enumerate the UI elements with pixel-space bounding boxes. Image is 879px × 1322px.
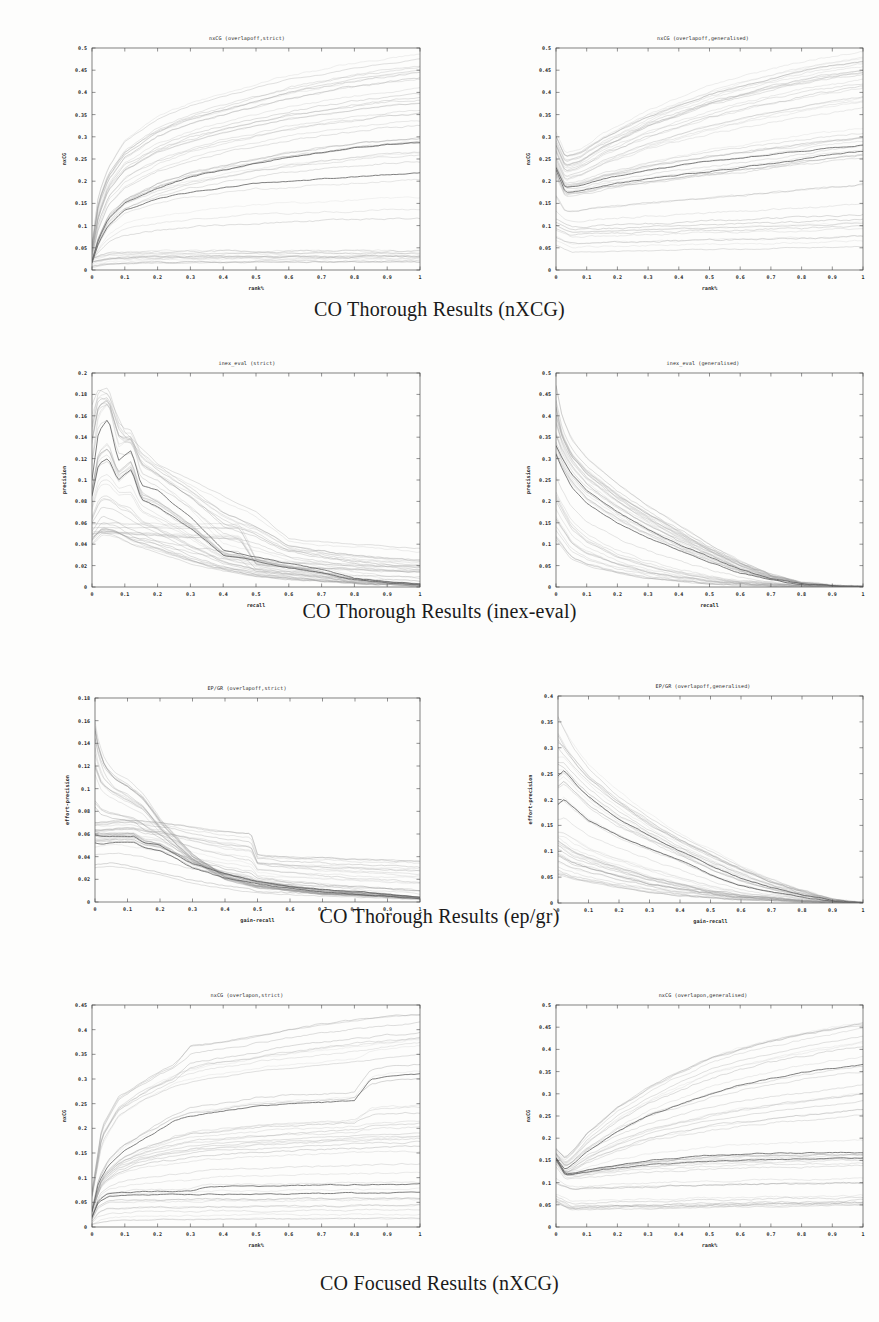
series-curve (556, 226, 863, 236)
x-tick-label: 0.5 (705, 274, 714, 280)
x-tick-label: 0.6 (284, 274, 293, 280)
y-axis-label: nxCG (61, 1110, 67, 1123)
series-curve (92, 500, 420, 585)
series-curve (92, 1163, 420, 1214)
x-tick-label: 0.5 (251, 274, 260, 280)
x-tick-label: 0 (554, 274, 557, 280)
series-curve (556, 141, 863, 184)
caption-row-2: CO Thorough Results (inex-eval) (0, 600, 879, 623)
plot-svg-p1: nxCG (overlapoff,strict) 00.10.20.30.40.… (42, 28, 432, 293)
plot-frame (556, 1005, 863, 1227)
series-curve (556, 1178, 863, 1187)
series-curve (556, 519, 863, 587)
x-tick-label: 0.3 (186, 1231, 195, 1237)
x-tick-label: 0 (554, 591, 557, 597)
series-curve (558, 762, 863, 902)
curve-bundle (556, 1022, 863, 1210)
plot-area-p7: 00.10.20.30.40.50.60.70.80.9100.050.10.1… (61, 1002, 422, 1248)
series-curve (558, 733, 863, 903)
y-tick-label: 0 (548, 1224, 551, 1230)
series-curve (92, 152, 420, 262)
x-tick-label: 0.8 (350, 1231, 359, 1237)
series-curve (556, 453, 863, 587)
y-tick-label: 0.15 (75, 200, 87, 206)
x-tick-label: 0 (554, 1231, 557, 1237)
y-tick-label: 0 (548, 267, 551, 273)
series-curve (92, 523, 420, 586)
panel-p7: nxCG (overlapon,strict) 00.10.20.30.40.5… (42, 985, 432, 1250)
x-tick-label: 0.4 (674, 1231, 683, 1237)
y-axis-label: precision (525, 466, 532, 494)
panel-p5: EP/GR (overlapoff,strict) 00.10.20.30.40… (42, 680, 432, 925)
series-curve (556, 414, 863, 587)
plot-frame (556, 48, 863, 270)
y-tick-label: 0.4 (542, 89, 551, 95)
series-curve (556, 1200, 863, 1207)
series-curve (92, 1123, 420, 1210)
x-tick-label: 0.1 (582, 274, 591, 280)
y-tick-label: 0.4 (542, 1046, 551, 1052)
y-tick-label: 0.14 (78, 740, 90, 746)
x-tick-label: 1 (418, 591, 421, 597)
y-tick-label: 0.16 (78, 718, 90, 724)
series-curve-run-mid (92, 1133, 420, 1210)
x-tick-label: 0.2 (153, 1231, 162, 1237)
y-tick-label: 0.2 (78, 370, 87, 376)
series-curve (556, 1022, 863, 1156)
x-tick-label: 0.7 (766, 1231, 775, 1237)
x-tick-label: 0.5 (705, 1231, 714, 1237)
series-curve (556, 453, 863, 587)
plot-area-p6: 00.10.20.30.40.50.60.70.80.9100.050.10.1… (527, 693, 865, 925)
panel-p3: inex_eval (strict) 00.10.20.30.40.50.60.… (42, 355, 432, 607)
series-curve (95, 832, 420, 899)
x-tick-label: 0.9 (383, 1231, 392, 1237)
plot-area-p8: 00.10.20.30.40.50.60.70.80.9100.050.10.1… (525, 1002, 865, 1248)
series-curve-run-median-bold (556, 145, 863, 187)
curve-bundle (92, 54, 420, 267)
curve-bundle (92, 388, 420, 587)
x-tick-label: 0.9 (828, 591, 837, 597)
x-tick-label: 0 (90, 1231, 93, 1237)
y-tick-label: 0 (84, 1224, 87, 1230)
plot-svg-p3: inex_eval (strict) 00.10.20.30.40.50.60.… (42, 355, 432, 607)
x-tick-label: 0.3 (644, 591, 653, 597)
plot-area-p5: 00.10.20.30.40.50.60.70.80.9100.020.040.… (64, 695, 422, 924)
plot-title-p8: nxCG (overlapon,generalised) (659, 992, 748, 999)
y-tick-label: 0.35 (75, 1051, 87, 1057)
y-tick-label: 0.12 (78, 763, 90, 769)
series-curve (92, 1037, 420, 1196)
x-tick-label: 0.1 (582, 591, 591, 597)
plot-area-p3: 00.10.20.30.40.50.60.70.80.9100.020.040.… (61, 370, 422, 607)
series-curve (92, 1151, 420, 1212)
series-curve (556, 129, 863, 187)
plot-title-p2: nxCG (overlapoff,generalised) (657, 35, 749, 42)
x-axis-label: rank% (702, 1242, 718, 1248)
y-tick-label: 0.2 (542, 178, 551, 184)
plot-svg-p4: inex_eval (generalised) 00.10.20.30.40.5… (508, 355, 873, 607)
series-curve (92, 93, 420, 251)
y-tick-label: 0.5 (542, 45, 551, 51)
series-curve (556, 240, 863, 248)
y-tick-label: 0.35 (539, 112, 551, 118)
series-curve (92, 1039, 420, 1195)
series-curve (556, 236, 863, 244)
series-curve (556, 435, 863, 587)
y-tick-label: 0.3 (542, 456, 551, 462)
y-tick-label: 0.2 (544, 797, 553, 803)
x-tick-label: 1 (861, 591, 864, 597)
series-curve (556, 419, 863, 587)
x-tick-label: 0 (90, 274, 93, 280)
x-tick-label: 0.4 (219, 274, 228, 280)
plot-svg-p5: EP/GR (overlapoff,strict) 00.10.20.30.40… (42, 680, 432, 925)
series-curve (92, 1042, 420, 1196)
y-tick-label: 0.06 (78, 831, 90, 837)
x-tick-label: 0.9 (383, 274, 392, 280)
plot-frame (92, 373, 420, 587)
x-tick-label: 0.3 (644, 274, 653, 280)
series-curve (95, 731, 420, 897)
x-tick-label: 0.2 (613, 591, 622, 597)
curve-bundle (556, 385, 863, 587)
x-tick-label: 1 (418, 1231, 421, 1237)
series-curve (95, 738, 420, 898)
x-tick-label: 1 (861, 274, 864, 280)
